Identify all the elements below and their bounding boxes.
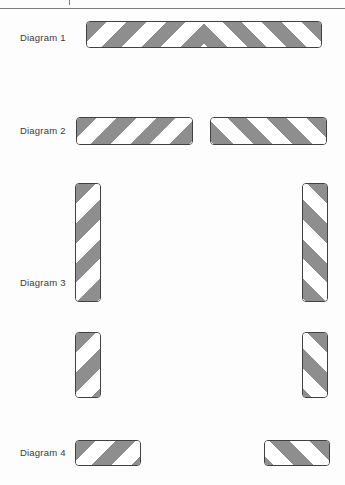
header-tick-mark bbox=[69, 0, 70, 5]
diagonal-stripes-mirrored bbox=[303, 184, 327, 301]
diagonal-stripes-mirrored bbox=[303, 333, 327, 397]
document-page: Diagram 1 Diagram 2 Diagram 3 Diagram 4 bbox=[0, 0, 345, 485]
diagram-2-left-marker-board bbox=[76, 117, 193, 145]
chevron-right-stripes bbox=[204, 22, 321, 47]
diagonal-stripes-mirrored bbox=[211, 118, 326, 144]
diagram-4-left-marker-board bbox=[75, 440, 141, 466]
diagram-2-label: Diagram 2 bbox=[20, 125, 66, 137]
diagram-3-label: Diagram 3 bbox=[20, 277, 66, 289]
diagram-1-label: Diagram 1 bbox=[20, 32, 66, 44]
diagram-4-label: Diagram 4 bbox=[20, 447, 66, 459]
diagonal-stripes-mirrored bbox=[265, 441, 329, 465]
diagram-3-short-left-marker-board bbox=[75, 332, 101, 398]
diagram-3-tall-right-marker-board bbox=[302, 183, 328, 302]
diagonal-stripes bbox=[76, 441, 140, 465]
diagonal-stripes bbox=[76, 184, 100, 301]
diagram-2-right-marker-board bbox=[210, 117, 327, 145]
diagonal-stripes bbox=[77, 118, 192, 144]
chevron-left-stripes bbox=[87, 22, 204, 47]
diagram-1-chevron-marker-board bbox=[86, 21, 322, 48]
diagram-3-tall-left-marker-board bbox=[75, 183, 101, 302]
diagonal-stripes bbox=[76, 333, 100, 397]
header-rule bbox=[0, 8, 345, 9]
diagram-3-short-right-marker-board bbox=[302, 332, 328, 398]
diagram-4-right-marker-board bbox=[264, 440, 330, 466]
